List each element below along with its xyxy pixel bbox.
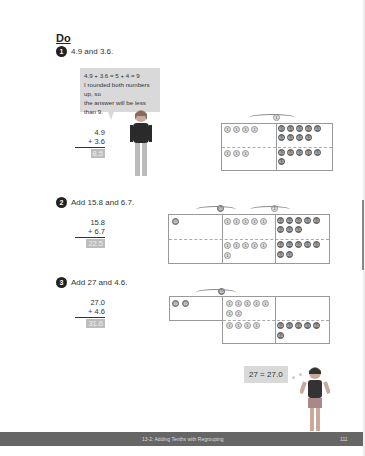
one-disc: 1 <box>226 300 233 307</box>
regroup-arrow <box>249 114 295 121</box>
one-disc: 1 <box>226 322 233 329</box>
vertical-addition-1: 4.9 + 3.6 8.5 <box>75 128 105 158</box>
tenth-disc: 0.1 <box>277 241 284 248</box>
tenth-disc: 0.1 <box>277 251 284 258</box>
bubble-line-1: 4.9 + 3.6 = 5 + 4 = 9 <box>84 71 156 80</box>
page-footer: 13-2: Adding Tenths with Regrouping 111 <box>0 432 365 446</box>
regroup-arrow <box>196 206 236 213</box>
one-disc: 1 <box>242 126 249 133</box>
one-disc: 1 <box>253 322 260 329</box>
tenth-disc: 0.1 <box>296 125 303 132</box>
one-disc: 1 <box>253 300 260 307</box>
tenth-disc: 0.1 <box>314 149 321 156</box>
sum-line <box>75 147 105 148</box>
tenth-disc: 0.1 <box>278 125 285 132</box>
girl-illustration <box>128 108 154 180</box>
one-disc: 1 <box>242 150 249 157</box>
one-disc: 1 <box>251 218 258 225</box>
tenth-disc: 0.1 <box>287 125 294 132</box>
question-1-text: 4.9 and 3.6. <box>71 47 113 56</box>
boy-illustration <box>300 365 330 433</box>
question-3-text: Add 27 and 4.6. <box>71 278 128 287</box>
page-side-marker <box>362 200 364 270</box>
one-disc: 1 <box>233 150 240 157</box>
ten-disc: 10 <box>172 300 179 307</box>
tenth-disc: 0.1 <box>287 149 294 156</box>
one-disc: 1 <box>242 218 249 225</box>
tenth-disc: 0.1 <box>295 322 302 329</box>
ten-disc: 10 <box>182 300 189 307</box>
one-disc: 1 <box>251 242 258 249</box>
tenth-disc: 0.1 <box>277 217 284 224</box>
thought-bubble: 27 = 27.0 <box>244 366 288 383</box>
one-disc: 1 <box>233 218 240 225</box>
tenth-disc: 0.1 <box>305 149 312 156</box>
one-disc: 1 <box>242 242 249 249</box>
tenth-disc: 0.1 <box>295 241 302 248</box>
tenth-disc: 0.1 <box>295 217 302 224</box>
vertical-addition-3: 27.0 + 4.6 31.6 <box>75 298 105 328</box>
one-disc: 1 <box>251 126 258 133</box>
tenth-disc: 0.1 <box>314 125 321 132</box>
one-disc: 1 <box>262 300 269 307</box>
tenth-disc: 0.1 <box>286 226 293 233</box>
one-disc: 1 <box>226 310 233 317</box>
one-disc: 1 <box>224 218 231 225</box>
bubble-line-2: I rounded both numbers up, so <box>84 80 156 98</box>
workbook-page: Do 1 4.9 and 3.6. 4.9 + 3.6 = 5 + 4 = 9 … <box>0 0 363 456</box>
tenth-disc: 0.1 <box>286 241 293 248</box>
addend-bottom: + 6.7 <box>75 227 105 236</box>
question-2-text: Add 15.8 and 6.7. <box>71 198 134 207</box>
tenth-disc: 0.1 <box>278 134 285 141</box>
page-number: 111 <box>340 436 348 442</box>
one-disc: 1 <box>244 300 251 307</box>
tenth-disc: 0.1 <box>304 322 311 329</box>
addend-top: 15.8 <box>75 218 105 227</box>
tenth-disc: 0.1 <box>305 125 312 132</box>
tenth-disc: 0.1 <box>313 241 320 248</box>
ten-disc: 10 <box>172 218 179 225</box>
one-disc: 1 <box>235 300 242 307</box>
vertical-addition-2: 15.8 + 6.7 22.5 <box>75 218 105 248</box>
tenth-disc: 0.1 <box>287 134 294 141</box>
addend-bottom: + 3.6 <box>75 137 105 146</box>
one-disc: 1 <box>260 218 267 225</box>
thought-dot <box>292 376 295 379</box>
addend-top: 4.9 <box>75 128 105 137</box>
question-number-1: 1 <box>56 46 67 57</box>
tenth-disc: 0.1 <box>313 322 320 329</box>
question-number-2: 2 <box>56 197 67 208</box>
section-heading: Do <box>56 32 71 44</box>
addend-bottom: + 4.6 <box>75 307 105 316</box>
one-disc: 1 <box>235 310 242 317</box>
one-disc: 1 <box>224 242 231 249</box>
tenth-disc: 0.1 <box>286 217 293 224</box>
tenth-disc: 0.1 <box>278 149 285 156</box>
answer-box[interactable]: 8.5 <box>91 149 105 158</box>
tenth-disc: 0.1 <box>286 251 293 258</box>
tenth-disc: 0.1 <box>295 226 302 233</box>
one-disc: 1 <box>260 242 267 249</box>
one-disc: 1 <box>224 150 231 157</box>
tenth-disc: 0.1 <box>277 226 284 233</box>
sum-line <box>75 317 105 318</box>
tenth-disc: 0.1 <box>277 322 284 329</box>
tenth-disc: 0.1 <box>278 158 285 165</box>
tenth-disc: 0.1 <box>286 322 293 329</box>
question-number-3: 3 <box>56 277 67 288</box>
one-disc: 1 <box>233 242 240 249</box>
speech-bubble: 4.9 + 3.6 = 5 + 4 = 9 I rounded both num… <box>80 68 160 112</box>
one-disc: 1 <box>244 322 251 329</box>
regroup-arrow <box>250 206 290 213</box>
answer-box[interactable]: 31.6 <box>86 319 105 328</box>
tenth-disc: 0.1 <box>305 134 312 141</box>
one-disc: 1 <box>224 252 231 259</box>
answer-box[interactable]: 22.5 <box>86 239 105 248</box>
one-disc: 1 <box>235 322 242 329</box>
tenth-disc: 0.1 <box>296 149 303 156</box>
one-disc: 1 <box>224 126 231 133</box>
tenth-disc: 0.1 <box>277 332 284 339</box>
one-disc: 1 <box>233 126 240 133</box>
sum-line <box>75 237 105 238</box>
tenth-disc: 0.1 <box>296 134 303 141</box>
